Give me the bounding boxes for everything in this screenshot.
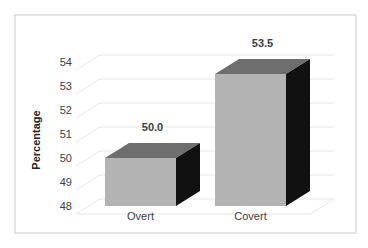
data-label: 53.5: [252, 37, 273, 49]
y-tick-label: 50: [60, 152, 72, 164]
y-tick-label: 52: [60, 104, 72, 116]
bar-front-face: [105, 158, 176, 206]
y-tick-label: 49: [60, 176, 72, 188]
data-label: 50.0: [142, 121, 163, 133]
y-tick-label: 53: [60, 80, 72, 92]
y-tick-label: 48: [60, 200, 72, 212]
y-axis-label: Percentage: [30, 110, 42, 169]
bar-chart: 48495051525354 Percentage 50.0Overt53.5C…: [0, 0, 368, 248]
y-tick-label: 51: [60, 128, 72, 140]
category-label: Covert: [234, 210, 266, 222]
y-tick-label: 54: [60, 56, 72, 68]
category-label: Overt: [127, 210, 154, 222]
bar-front-face: [215, 74, 286, 206]
bar-side-face: [286, 59, 310, 206]
